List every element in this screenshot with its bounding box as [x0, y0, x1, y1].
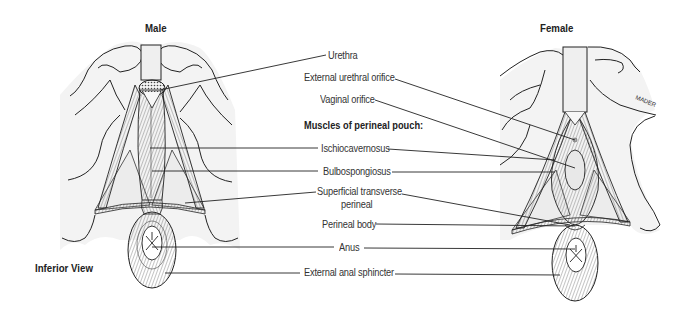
label-external-anal-sphincter: External anal sphincter [304, 266, 394, 278]
label-urethra: Urethra [328, 49, 358, 61]
label-superficial-transverse-perineal-line1: Superficial transverse [317, 185, 402, 197]
view-label: Inferior View [35, 262, 93, 274]
panel-title-female: Female [540, 22, 573, 34]
label-bulbospongiosus: Bulbospongiosus [323, 165, 391, 177]
label-perineal-body: Perineal body [322, 218, 376, 230]
panel-title-male: Male [145, 22, 167, 34]
label-external-urethral-orifice: External urethral orifice [304, 71, 395, 83]
perineal-muscles-diagram: MADER Mal [0, 0, 698, 319]
label-ischiocavernosus: Ischiocavernosus [321, 142, 390, 154]
female-figure: MADER [500, 47, 660, 301]
label-anus: Anus [339, 241, 359, 253]
label-vaginal-orifice: Vaginal orifice [320, 93, 375, 105]
muscles-heading: Muscles of perineal pouch: [304, 119, 423, 131]
label-superficial-transverse-perineal-line2: perineal [341, 198, 372, 210]
